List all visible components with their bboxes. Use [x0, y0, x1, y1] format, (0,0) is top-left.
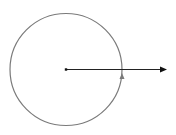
circle-vector-diagram [0, 0, 176, 135]
orientation-arrowhead-icon [120, 73, 125, 79]
center-point [65, 68, 67, 70]
arrowhead-icon [160, 67, 167, 73]
